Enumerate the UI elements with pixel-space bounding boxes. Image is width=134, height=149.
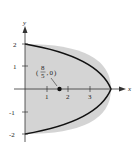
y-tick-label-2: 2 [13, 41, 17, 49]
region-diagram: x y 1 2 3 2 1 -1 -2 ( 8 5 , 0 ) [0, 0, 134, 149]
svg-text:,: , [47, 69, 49, 77]
y-tick-label-1: 1 [13, 63, 17, 71]
x-axis-label: x [127, 85, 132, 93]
y-axis-arrow-icon [23, 26, 28, 33]
centroid-point [57, 87, 61, 91]
label-y-value: 0 [50, 69, 54, 77]
x-tick-label-2: 2 [66, 93, 70, 101]
y-tick-label-neg1: -1 [9, 109, 15, 117]
x-tick-label-3: 3 [88, 93, 92, 101]
x-axis-arrow-icon [119, 87, 126, 92]
x-tick-label-1: 1 [45, 93, 49, 101]
label-denominator: 5 [41, 72, 45, 80]
y-tick-label-neg2: -2 [9, 131, 15, 139]
y-axis-label: y [22, 19, 27, 27]
